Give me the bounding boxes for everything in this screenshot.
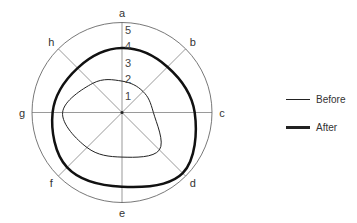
legend-item-after: After	[286, 120, 356, 134]
spoke-b	[122, 49, 186, 113]
series-before	[63, 80, 162, 158]
legend-thin-line-icon	[286, 99, 310, 100]
tick-label-3: 3	[125, 57, 131, 69]
legend: Before After	[286, 92, 356, 148]
tick-label-1: 1	[125, 90, 131, 102]
legend-label-after: After	[316, 122, 337, 133]
tick-label-2: 2	[125, 73, 131, 85]
axis-label-b: b	[190, 36, 196, 48]
spoke-d	[122, 113, 186, 177]
series-after	[52, 48, 196, 187]
tick-label-5: 5	[125, 24, 131, 36]
axis-label-e: e	[119, 207, 125, 219]
radar-series	[52, 48, 196, 187]
axis-label-f: f	[50, 177, 54, 189]
axis-label-g: g	[19, 107, 25, 119]
tick-label-4: 4	[125, 40, 131, 52]
axis-label-h: h	[48, 36, 54, 48]
legend-label-before: Before	[316, 94, 345, 105]
legend-thick-line-icon	[286, 126, 310, 129]
axis-label-c: c	[219, 107, 225, 119]
axis-label-d: d	[190, 177, 196, 189]
legend-item-before: Before	[286, 92, 356, 106]
radar-grid	[32, 23, 212, 203]
axis-label-a: a	[119, 7, 126, 19]
center-dot	[121, 111, 124, 114]
